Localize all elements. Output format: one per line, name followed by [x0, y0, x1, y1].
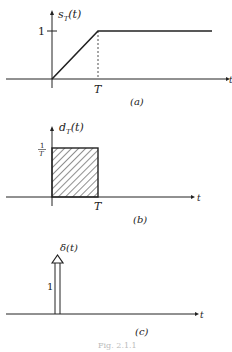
xtick-label-b: T [94, 200, 103, 213]
y-axis-arrow-icon [50, 126, 54, 131]
panel-b: dT(t) 1 T T t (b) [6, 121, 201, 225]
panel-a: sT(t) 1 T t (a) [6, 8, 232, 107]
figure-caption: Fig. 2.1.1 [98, 341, 137, 350]
ylabel-b: dT(t) [59, 121, 84, 136]
caption-b: (b) [133, 214, 147, 225]
caption-c: (c) [135, 326, 149, 337]
xlabel-c: t [200, 310, 204, 320]
pulse-rect [52, 148, 98, 197]
ramp-curve [52, 31, 212, 79]
x-axis-arrow-icon [195, 312, 199, 316]
panel-c: δ(t) 1 t (c) [6, 242, 204, 337]
xlabel-a: t [229, 75, 232, 85]
ytick-num-b: 1 [40, 142, 44, 150]
impulse-arrow-icon [52, 255, 63, 263]
impulse-weight: 1 [47, 281, 53, 292]
ylabel-a: sT(t) [58, 8, 81, 23]
xtick-label-a: T [94, 83, 103, 96]
y-axis-arrow-icon [50, 10, 54, 15]
caption-a: (a) [130, 96, 144, 107]
figure: sT(t) 1 T t (a) dT(t) 1 T T t (b) δ(t) 1… [0, 0, 232, 352]
ylabel-c: δ(t) [60, 242, 78, 253]
x-axis-arrow-icon [191, 195, 195, 199]
xlabel-b: t [197, 193, 201, 203]
ytick-label-a: 1 [38, 25, 45, 38]
ytick-den-b: T [39, 150, 45, 158]
